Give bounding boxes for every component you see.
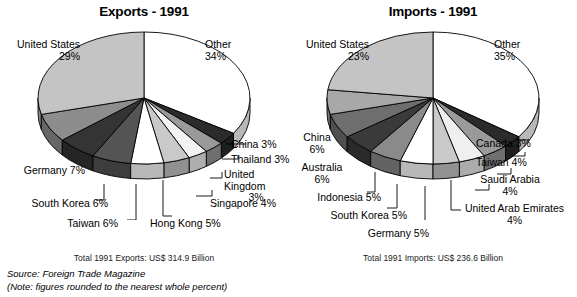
leader-line — [163, 180, 172, 216]
slice-label-united-states: United States 29% — [2, 39, 80, 62]
slice-label-china: China 3% — [231, 139, 277, 151]
leader-line — [367, 172, 375, 192]
slice-label-united-states: United States 23% — [291, 39, 369, 62]
slice-label-other: Other 34% — [205, 39, 275, 62]
slice-label-thailand: Thailand 3% — [231, 154, 289, 166]
slice-label-taiwan: Taiwan 4% — [476, 157, 527, 169]
slice-label-germany: Germany 5% — [309, 228, 429, 240]
slice-label-germany: Germany 7% — [0, 165, 85, 177]
leader-line — [127, 184, 136, 220]
chart-title-imports: Imports - 1991 — [289, 4, 577, 19]
leader-line — [387, 184, 397, 208]
slice-label-hong-kong: Hong Kong 5% — [150, 218, 221, 230]
slice-label-south-korea: South Korea 5% — [289, 210, 407, 222]
slice-label-singapore: Singapore 4% — [210, 198, 276, 210]
chart-total-imports: Total 1991 Imports: US$ 236.6 Billion — [289, 253, 577, 263]
slice-label-canada: Canada 3% — [476, 138, 531, 150]
slice-label-other: Other 35% — [494, 39, 564, 62]
figure-root: Exports - 1991 United States 29% Other 3… — [0, 0, 577, 297]
source-line: Source: Foreign Trade Magazine — [7, 268, 227, 281]
slice-label-china: China 6% — [289, 132, 345, 155]
chart-panel-imports: Imports - 1991 United States 23% Other 3… — [289, 0, 577, 297]
slice-label-australia: Australia 6% — [289, 162, 355, 185]
slice-label-indonesia: Indonesia 5% — [289, 192, 381, 204]
leader-line — [415, 186, 425, 220]
slice-label-south-korea: South Korea 6% — [0, 198, 108, 210]
note-line: (Note: figures rounded to the nearest wh… — [7, 281, 227, 294]
chart-panel-exports: Exports - 1991 United States 29% Other 3… — [0, 0, 288, 297]
chart-title-exports: Exports - 1991 — [0, 4, 288, 19]
leader-line — [210, 172, 222, 178]
chart-total-exports: Total 1991 Exports: US$ 314.9 Billion — [0, 253, 288, 263]
slice-label-united-arab-emirates: United Arab Emirates 4% — [452, 203, 577, 226]
leader-line — [196, 190, 212, 196]
slice-label-saudi-arabia: Saudi Arabia 4% — [464, 174, 556, 197]
slice-label-taiwan: Taiwan 6% — [18, 218, 118, 230]
source-note-block: Source: Foreign Trade Magazine (Note: fi… — [7, 268, 227, 293]
